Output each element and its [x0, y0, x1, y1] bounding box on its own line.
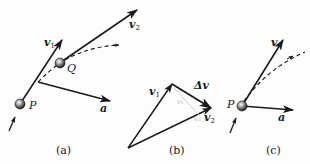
- label-v2-b: v2: [204, 111, 215, 125]
- label-v-c: v: [271, 36, 278, 49]
- label-Q: Q: [67, 62, 76, 75]
- label-v1-a: v1: [44, 36, 55, 50]
- label-delta-v-b: Δv: [193, 79, 210, 92]
- label-a-a: a: [100, 102, 107, 115]
- label-P-a: P: [28, 99, 37, 112]
- faint-label-1-b: v₁: [177, 98, 184, 106]
- point-P-ball-c: [237, 101, 247, 111]
- point-P-ball-a: [15, 99, 25, 109]
- label-v2-a: v2: [129, 18, 140, 32]
- point-Q-ball-a: [55, 58, 65, 68]
- panel-a: v1 v2 Q P a (a): [9, 10, 140, 157]
- panel-c: v P a (c): [226, 36, 305, 157]
- label-P-c: P: [226, 98, 235, 111]
- panel-b: v1 Δv v2 v₁ v₂ (b): [128, 79, 215, 157]
- acceleration-arrow-a: [38, 82, 110, 101]
- incoming-arrow-c: [230, 118, 236, 133]
- label-a-c: a: [278, 111, 285, 124]
- caption-a: (a): [56, 144, 71, 157]
- caption-c: (c): [266, 144, 281, 157]
- v1-arrow-a: [20, 40, 62, 104]
- trajectory-arrowhead-a: [112, 45, 119, 46]
- v2-arrow-a: [61, 10, 137, 62]
- incoming-arrow-a: [9, 117, 15, 131]
- caption-b: (b): [169, 144, 185, 157]
- label-v1-b: v1: [149, 85, 160, 99]
- velocity-acceleration-diagram: v1 v2 Q P a (a) v1 Δv v2 v₁ v₂ (b) v P a…: [0, 0, 310, 164]
- faint-label-2-b: v₂: [194, 115, 201, 123]
- trajectory-curve-c: [244, 52, 305, 101]
- velocity-arrow-c: [242, 40, 283, 106]
- acceleration-arrow-c: [242, 106, 293, 110]
